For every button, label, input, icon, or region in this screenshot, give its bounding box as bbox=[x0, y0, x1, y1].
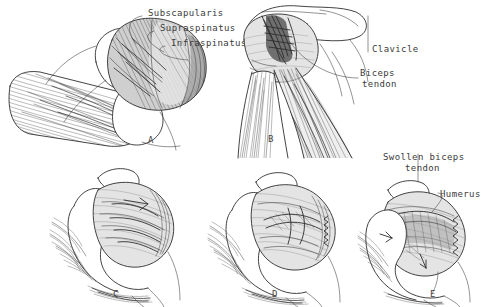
panel-letter-b: B bbox=[268, 134, 273, 144]
panel-d: D bbox=[200, 160, 360, 307]
panel-d-drawing bbox=[200, 160, 360, 307]
panel-e: Swollen biceps tendon Humerus E bbox=[358, 160, 496, 307]
panel-b-drawing bbox=[200, 0, 380, 160]
label-swollen-biceps-tendon-second-line: tendon bbox=[405, 163, 440, 174]
panel-b: Clavicle Biceps tendon B bbox=[200, 0, 380, 160]
panel-letter-d: D bbox=[272, 289, 277, 299]
label-humerus: Humerus bbox=[440, 189, 481, 200]
panel-c: C bbox=[40, 160, 200, 307]
label-swollen-biceps-tendon: Swollen biceps bbox=[383, 152, 464, 163]
anatomy-figure: Subscapularis Supraspinatus Infraspinatu… bbox=[0, 0, 496, 307]
label-biceps-tendon: Biceps bbox=[360, 68, 395, 79]
panel-letter-c: C bbox=[113, 289, 118, 299]
label-clavicle: Clavicle bbox=[372, 44, 419, 55]
panel-e-drawing bbox=[358, 160, 496, 307]
panel-c-drawing bbox=[40, 160, 200, 307]
panel-letter-a: A bbox=[148, 135, 153, 145]
label-biceps-tendon-second-line: tendon bbox=[362, 79, 397, 90]
panel-letter-e: E bbox=[430, 289, 435, 299]
